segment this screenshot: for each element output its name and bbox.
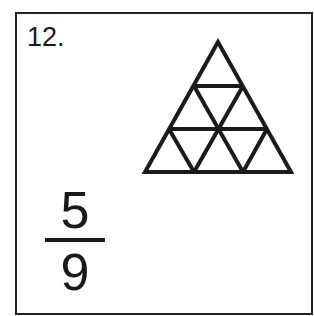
fraction-denominator: 9 — [45, 246, 105, 298]
problem-card: 12. 5 9 — [15, 12, 313, 315]
outer-triangle — [145, 42, 291, 172]
answer-fraction: 5 9 — [45, 184, 105, 298]
fraction-numerator: 5 — [45, 184, 105, 236]
